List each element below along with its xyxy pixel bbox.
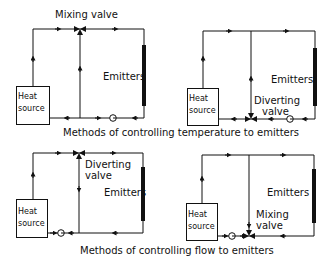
heat-source-label: source xyxy=(188,222,215,231)
valve-label: Diverting xyxy=(254,95,300,106)
heat-source-label: source xyxy=(18,219,45,228)
valve-label: valve xyxy=(256,220,283,231)
pump-icon xyxy=(229,233,236,240)
valve-label: Diverting xyxy=(85,159,131,170)
caption-temperature: Methods of controlling temperature to em… xyxy=(63,127,299,138)
emitters-label: Emitters xyxy=(271,74,313,85)
heat-source-label: Heat xyxy=(189,94,208,103)
heat-source-label: source xyxy=(18,104,45,113)
diverting-valve-icon xyxy=(245,113,257,122)
heating-control-diagrams: Mixing valve Emitters Heat source Emitte… xyxy=(0,0,329,263)
valve-label: Mixing valve xyxy=(55,9,118,20)
mixing-valve-icon xyxy=(74,26,86,35)
heat-source-label: Heat xyxy=(18,92,37,101)
emitters-label: Emitters xyxy=(104,187,146,198)
emitters-label: Emitters xyxy=(103,71,145,82)
diverting-valve-icon xyxy=(73,150,85,159)
emitters-label: Emitters xyxy=(267,187,309,198)
valve-label: valve xyxy=(262,106,289,117)
mixing-valve-icon xyxy=(243,230,255,239)
emitter-bar xyxy=(312,169,316,223)
heat-source-label: Heat xyxy=(18,207,37,216)
valve-label: Mixing xyxy=(256,209,289,220)
emitter-bar xyxy=(313,48,317,106)
heat-source-label: source xyxy=(189,106,216,115)
caption-flow: Methods of controlling flow to emitters xyxy=(80,245,274,256)
pump-icon xyxy=(58,230,65,237)
pump-icon xyxy=(110,115,117,122)
heat-source-label: Heat xyxy=(188,210,207,219)
valve-label: valve xyxy=(85,170,112,181)
